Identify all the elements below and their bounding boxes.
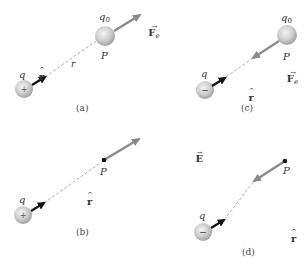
source-charge-label: q [199,211,205,221]
test-charge-sphere [277,25,297,45]
field-vector-arrow [104,139,139,160]
distance-dashed-line [44,161,103,203]
plus-sign-icon: + [20,211,27,220]
caption-d: (d) [242,248,255,257]
unit-vector-label: ^r [87,197,92,207]
caption-c: (c) [241,104,253,113]
minus-sign-icon: − [201,85,209,95]
test-charge-sphere [95,26,115,46]
force-vector-arrow [253,41,279,58]
point-p-dot [102,158,107,163]
source-charge-label: q [201,69,207,79]
test-charge-label: q0 [281,13,292,25]
distance-dashed-line [224,181,254,220]
plus-sign-icon: + [21,85,28,94]
distance-dashed-line [226,56,256,77]
field-vector-arrow [254,161,285,181]
point-p-label: P [283,52,290,62]
minus-sign-icon: − [199,227,207,237]
panel-d: − [194,159,287,241]
point-p-dot [283,159,288,164]
force-vector-arrow [114,15,140,31]
caption-a: (a) [76,104,88,113]
source-charge-label: q [19,70,25,80]
figure-graphics: + − + − [0,0,306,267]
force-vector-label: →Fe [287,74,298,86]
unit-vector-label: ^r [39,72,44,82]
point-p-label: P [101,51,108,61]
point-p-label: P [283,166,290,176]
electric-field-figure: + − + − [0,0,306,267]
unit-vector-label: ^r [291,234,296,244]
panel-b: + [14,139,139,224]
caption-b: (b) [76,228,89,237]
point-p-label: P [100,167,107,177]
source-charge-label: q [19,195,25,205]
panel-c: − [196,25,297,99]
panel-a: + [15,15,140,98]
field-vector-label: →E [195,154,203,164]
force-vector-label: →Fe [148,28,159,40]
unit-vector-arrow [31,203,44,211]
unit-vector-arrow [212,78,225,86]
unit-vector-arrow [211,220,224,228]
distance-label: r [71,60,75,69]
unit-vector-label: ^r [249,93,254,103]
test-charge-label: q0 [99,12,110,24]
